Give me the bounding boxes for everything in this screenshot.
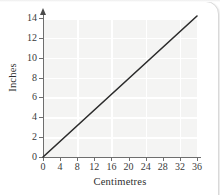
figure-card: 04812162024283236 02468101214 Centimetre…: [0, 0, 220, 195]
data-line-layer: [0, 0, 220, 195]
y-axis-title: Inches: [7, 48, 18, 108]
conversion-chart: 04812162024283236 02468101214 Centimetre…: [0, 0, 220, 195]
x-axis-title: Centimetres: [43, 176, 197, 187]
conversion-line: [43, 16, 197, 157]
